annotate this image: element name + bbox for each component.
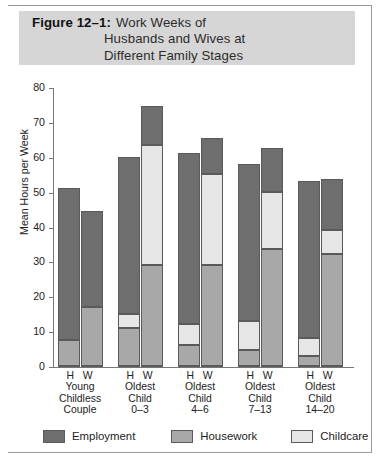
y-tick-label-80: 80	[33, 81, 45, 93]
y-tick-10: 10	[49, 332, 54, 333]
bar-segment-childcare	[321, 230, 343, 254]
legend-item-employment[interactable]: Employment	[43, 430, 135, 443]
bar-segment-housework	[201, 265, 223, 366]
bar-segment-employment	[201, 138, 223, 175]
x-subgroup-labels: H W	[119, 370, 163, 381]
figure-title-text-1: Work Weeks of	[116, 15, 206, 31]
plot-area: Mean Hours per Week 01020304050607080 H …	[0, 70, 381, 390]
bar-w	[81, 212, 103, 367]
y-tick-40: 40	[49, 228, 54, 229]
x-category-line-0: Oldest	[297, 381, 343, 393]
y-tick-label-40: 40	[33, 221, 45, 233]
bar-w	[141, 107, 163, 367]
bar-group	[118, 88, 164, 367]
bar-segment-employment	[321, 179, 343, 230]
figure-title-band: Figure 12–1: Work Weeks of Husbands and …	[19, 11, 355, 65]
bar-segment-childcare	[298, 338, 320, 355]
legend-item-childcare[interactable]: Childcare	[291, 430, 368, 443]
bar-h	[238, 165, 260, 367]
bar-group	[298, 88, 344, 367]
y-tick-0: 0	[49, 367, 54, 368]
x-category-line-2: 4–6	[177, 404, 223, 416]
y-tick-30: 30	[49, 262, 54, 263]
x-category-line-1: Child	[117, 393, 163, 405]
bar-h	[178, 154, 200, 367]
y-axis-label: Mean Hours per Week	[18, 102, 30, 262]
y-tick-label-70: 70	[33, 116, 45, 128]
bar-segment-childcare	[178, 324, 200, 345]
bar-segment-employment	[298, 181, 320, 338]
bottom-rule	[8, 452, 372, 453]
bar-segment-housework	[178, 345, 200, 366]
y-tick-60: 60	[49, 158, 54, 159]
bar-segment-housework	[58, 340, 80, 366]
x-subgroup-labels: H W	[299, 370, 343, 381]
y-tick-70: 70	[49, 123, 54, 124]
y-tick-label-30: 30	[33, 255, 45, 267]
bar-h	[118, 158, 140, 367]
legend-swatch-employment	[43, 430, 65, 443]
x-axis-labels: H WYoungChildlessCoupleH WOldestChild0–3…	[54, 370, 354, 430]
legend-label-housework: Housework	[200, 430, 257, 442]
x-group-label: H WYoungChildlessCouple	[57, 370, 103, 416]
bar-h	[58, 189, 80, 367]
x-subgroup-labels: H W	[179, 370, 223, 381]
x-category-line-2: 0–3	[117, 404, 163, 416]
x-group-label: H WOldestChild7–13	[237, 370, 283, 416]
figure-number: Figure 12–1:	[32, 15, 111, 31]
bar-segment-housework	[141, 265, 163, 366]
axis-area: 01020304050607080	[54, 88, 354, 367]
figure-title-line-2: Husbands and Wives at	[32, 31, 355, 47]
x-category-line-0: Oldest	[117, 381, 163, 393]
bar-segment-housework	[118, 328, 140, 366]
legend-swatch-housework	[171, 430, 193, 443]
y-tick-label-20: 20	[33, 290, 45, 302]
legend-label-employment: Employment	[72, 430, 135, 442]
legend-item-housework[interactable]: Housework	[171, 430, 257, 443]
x-category-line-2: 14–20	[297, 404, 343, 416]
x-axis-line	[49, 367, 354, 368]
bar-h	[298, 182, 320, 367]
bar-segment-housework	[261, 249, 283, 366]
bar-w	[321, 180, 343, 367]
x-category-line-0: Oldest	[177, 381, 223, 393]
bar-w	[201, 139, 223, 367]
x-category-line-1: Child	[237, 393, 283, 405]
bar-segment-housework	[298, 356, 320, 366]
bar-group	[178, 88, 224, 367]
bar-group	[58, 88, 104, 367]
bar-segment-housework	[321, 254, 343, 366]
x-category-line-1: Child	[177, 393, 223, 405]
legend-swatch-childcare	[291, 430, 313, 443]
x-category-line-1: Childless	[57, 393, 103, 405]
y-tick-label-0: 0	[39, 360, 45, 372]
y-tick-label-50: 50	[33, 186, 45, 198]
bar-w	[261, 149, 283, 367]
figure-panel: Figure 12–1: Work Weeks of Husbands and …	[0, 0, 381, 459]
chart-legend: EmploymentHouseworkChildcare	[19, 426, 364, 446]
y-tick-label-60: 60	[33, 151, 45, 163]
bar-segment-housework	[81, 307, 103, 366]
y-tick-20: 20	[49, 297, 54, 298]
x-category-line-1: Child	[297, 393, 343, 405]
bar-segment-childcare	[201, 174, 223, 265]
bar-segment-childcare	[118, 314, 140, 328]
x-group-label: H WOldestChild4–6	[177, 370, 223, 416]
y-tick-50: 50	[49, 193, 54, 194]
top-rule	[8, 5, 372, 6]
y-tick-label-10: 10	[33, 325, 45, 337]
x-group-label: H WOldestChild14–20	[297, 370, 343, 416]
legend-label-childcare: Childcare	[320, 430, 368, 442]
x-category-line-0: Young	[57, 381, 103, 393]
x-subgroup-labels: H W	[59, 370, 103, 381]
x-subgroup-labels: H W	[239, 370, 283, 381]
bar-segment-housework	[238, 350, 260, 366]
bar-segment-employment	[58, 188, 80, 340]
bar-segment-childcare	[141, 145, 163, 265]
bar-segment-employment	[178, 153, 200, 324]
x-category-line-2: 7–13	[237, 404, 283, 416]
bar-segment-childcare	[261, 192, 283, 250]
bar-segment-employment	[141, 106, 163, 144]
bar-segment-childcare	[238, 321, 260, 351]
bar-group	[238, 88, 284, 367]
